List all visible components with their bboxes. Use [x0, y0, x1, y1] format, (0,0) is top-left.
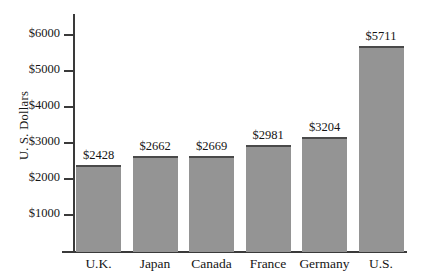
y-axis-tick-label: $6000	[0, 26, 60, 41]
bar-uk	[76, 165, 121, 252]
bar-chart: U. S. Dollars $1000$2000$3000$4000$5000$…	[0, 0, 424, 280]
bar-germany	[302, 137, 347, 252]
bar-canada	[189, 156, 234, 252]
y-axis-title: U. S. Dollars	[17, 66, 32, 186]
y-axis-tick-label: $1000	[0, 206, 60, 221]
y-axis-tick-label: $4000	[0, 98, 60, 113]
y-axis-tick-label: $2000	[0, 170, 60, 185]
y-axis-tick-label: $3000	[0, 134, 60, 149]
bar-value-label: $3204	[290, 120, 360, 135]
plot-area: $2428$2662$2669$2981$3204$5711	[73, 14, 407, 252]
bar-france	[246, 145, 291, 252]
y-axis-tick-label: $5000	[0, 62, 60, 77]
x-axis-label-us: U.S.	[344, 256, 418, 272]
bar-value-label: $5711	[346, 29, 416, 44]
bar-us	[359, 46, 404, 252]
bar-japan	[133, 156, 178, 252]
